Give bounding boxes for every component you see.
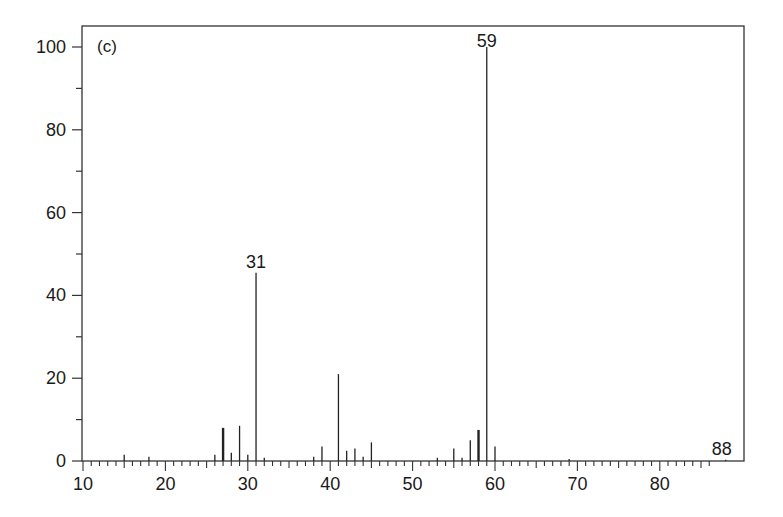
- x-tick-label: 40: [320, 474, 340, 494]
- peak-annotations: 315988: [246, 31, 732, 459]
- y-tick-label: 0: [56, 451, 66, 471]
- y-axis: 020406080100: [36, 37, 82, 471]
- x-axis: 1020304050607080: [73, 461, 709, 494]
- peak-label-31: 31: [246, 252, 266, 272]
- peaks: [124, 47, 726, 461]
- y-tick-label: 20: [46, 368, 66, 388]
- y-tick-label: 60: [46, 203, 66, 223]
- peak-label-88: 88: [712, 439, 732, 459]
- y-tick-label: 80: [46, 120, 66, 140]
- y-tick-label: 100: [36, 37, 66, 57]
- x-tick-label: 60: [485, 474, 505, 494]
- x-tick-label: 20: [155, 474, 175, 494]
- x-tick-label: 50: [403, 474, 423, 494]
- x-tick-label: 80: [650, 474, 670, 494]
- mass-spectrum-chart: 020406080100 1020304050607080 315988 (c): [0, 0, 783, 517]
- y-tick-label: 40: [46, 285, 66, 305]
- x-tick-label: 30: [238, 474, 258, 494]
- x-tick-label: 10: [73, 474, 93, 494]
- panel-label: (c): [97, 37, 117, 56]
- peak-label-59: 59: [477, 31, 497, 51]
- plot-frame: [82, 26, 744, 461]
- x-tick-label: 70: [567, 474, 587, 494]
